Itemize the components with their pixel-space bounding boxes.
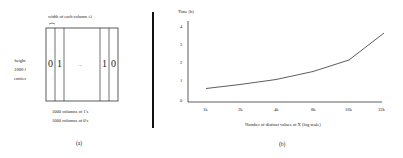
x-tick-1k: 1k	[203, 107, 208, 112]
time-series-line	[206, 33, 384, 89]
x-tick-8k: 8k	[311, 107, 316, 112]
y-tick-2: 2	[180, 60, 182, 65]
y-tick-1: 1	[180, 78, 182, 83]
x-tick-2k: 2k	[238, 107, 243, 112]
chart-plot	[0, 0, 403, 158]
x-tick-16k: 16k	[345, 107, 352, 112]
y-tick-3: 3	[180, 42, 182, 47]
x-axis-label: Number of distinct values of X (log scal…	[245, 122, 321, 127]
x-tick-32k: 32k	[378, 107, 385, 112]
x-tick-4k: 4k	[274, 107, 279, 112]
y-tick-0: 0	[180, 98, 182, 103]
caption-b: (b)	[279, 141, 285, 147]
y-tick-4: 4	[180, 24, 182, 29]
